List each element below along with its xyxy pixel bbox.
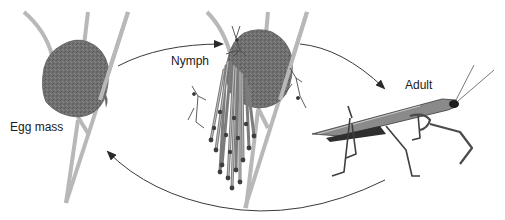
adult-stage <box>312 65 494 176</box>
nymph-stage <box>188 12 307 208</box>
stage-label-nymph: Nymph <box>171 55 209 67</box>
egg-mass-icon <box>42 40 108 117</box>
egg-mass-stage <box>24 12 128 203</box>
stage-label-egg-mass: Egg mass <box>10 121 63 133</box>
life-cycle-diagram: Egg mass Nymph Adult <box>0 0 505 220</box>
small-nymph-icon <box>188 86 206 128</box>
adult-mantis-icon <box>312 65 494 176</box>
stage-label-adult: Adult <box>405 79 432 91</box>
diagram-canvas <box>0 0 505 220</box>
arrow-nymph-to-adult-icon <box>300 44 384 88</box>
